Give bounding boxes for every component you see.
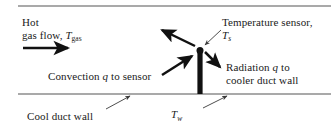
- label-hot-gas-flow: Hot gas flow, Tgas: [22, 16, 82, 43]
- gas-temperature-subscript: gas: [72, 34, 82, 43]
- temperature-sensor-line1: Temperature sensor,: [222, 16, 313, 28]
- sensor-temperature-subscript: s: [228, 34, 231, 43]
- label-convection-to-sensor: Convection q to sensor: [48, 70, 151, 83]
- gas-temperature-symbol: T: [65, 29, 71, 41]
- arrow-up-left-from-sensor: [162, 30, 195, 46]
- sensor-tip-bead: [197, 47, 204, 54]
- sensor-probe-stem: [197, 51, 202, 94]
- radiation-arrow-to-wall: [205, 52, 220, 67]
- label-cool-duct-wall: Cool duct wall: [27, 110, 93, 123]
- temperature-sensor-line2: Ts: [222, 29, 313, 44]
- radiation-line2: cooler duct wall: [226, 74, 298, 87]
- label-radiation-to-wall: Radiation q to cooler duct wall: [226, 61, 298, 86]
- radiation-suffix: to: [278, 61, 290, 73]
- convection-arrow-to-sensor: [162, 56, 192, 75]
- duct-sensor-diagram: Hot gas flow, Tgas Temperature sensor, T…: [0, 0, 331, 135]
- hot-gas-flow-line2: gas flow,: [22, 29, 65, 41]
- label-wall-temperature: Tw: [171, 108, 182, 123]
- hot-gas-flow-line1: Hot: [22, 16, 39, 28]
- label-temperature-sensor: Temperature sensor, Ts: [222, 16, 313, 43]
- leader-cool-duct-wall: [106, 96, 130, 109]
- leader-wall-temperature: [203, 96, 227, 108]
- convection-prefix: Convection: [48, 70, 103, 82]
- leader-temperature-sensor: [205, 30, 221, 45]
- cool-duct-wall-text: Cool duct wall: [27, 110, 93, 122]
- convection-suffix: to sensor: [108, 70, 151, 82]
- wall-temperature-subscript: w: [177, 114, 182, 123]
- radiation-prefix: Radiation: [226, 61, 273, 73]
